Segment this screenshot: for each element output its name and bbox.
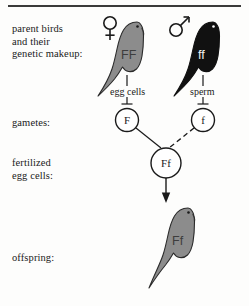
zygote-genotype-label: Ff	[161, 157, 171, 169]
egg-cells-label: egg cells	[110, 86, 145, 97]
offspring-genotype-label: Ff	[172, 234, 184, 248]
egg-gamete-node: F	[116, 109, 139, 132]
sperm-to-zygote-line	[169, 128, 194, 148]
offspring-bird-body	[149, 208, 195, 288]
mars-symbol	[170, 17, 189, 36]
egg-to-zygote-line	[136, 128, 161, 148]
male-parent-group: ff	[170, 17, 220, 96]
female-genotype-label: FF	[121, 48, 137, 62]
female-bird-eye	[136, 25, 139, 28]
sperm-label: sperm	[190, 86, 215, 97]
egg-gamete-label: F	[124, 114, 130, 126]
venus-symbol	[104, 17, 116, 40]
diagram-canvas: FF egg cells ff	[0, 0, 249, 306]
offspring-bird-eye	[187, 211, 190, 214]
sperm-gamete-label: f	[201, 114, 205, 126]
male-genotype-label: ff	[198, 48, 205, 62]
male-bird-eye	[212, 25, 215, 28]
genetics-diagram-page: parent birds and their genetic makeup: g…	[0, 0, 249, 306]
sperm-gamete-node: f	[192, 109, 215, 132]
zygote-to-offspring-arrow	[162, 178, 170, 203]
offspring-group: Ff	[149, 208, 195, 288]
zygote-node: Ff	[151, 148, 181, 178]
female-parent-group: FF	[98, 17, 144, 96]
